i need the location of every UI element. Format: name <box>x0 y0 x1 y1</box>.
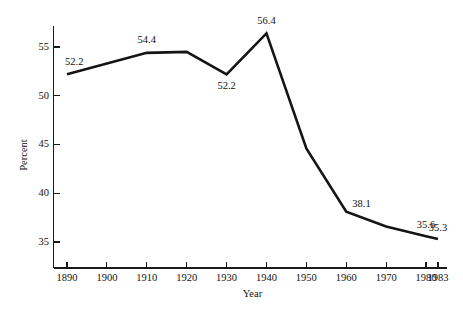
y-tick-label-50: 50 <box>39 90 50 101</box>
x-tick-label-1930: 1930 <box>216 272 237 283</box>
point-label-1930: 52.2 <box>217 80 235 91</box>
y-axis: 5550454035 <box>39 26 61 268</box>
y-tick-label-55: 55 <box>39 41 50 52</box>
line-chart: 5550454035 18901900191019201930194019501… <box>0 0 463 314</box>
x-tick-label-1910: 1910 <box>136 272 157 283</box>
x-tick-label-1890: 1890 <box>57 272 78 283</box>
x-axis-title: Year <box>243 288 263 299</box>
point-label-1910: 54.4 <box>138 34 157 45</box>
x-tick-label-1950: 1950 <box>296 272 317 283</box>
point-label-1960: 38.1 <box>352 198 370 209</box>
point-label-1940: 56.4 <box>257 15 276 26</box>
y-tick-label-40: 40 <box>39 187 50 198</box>
x-tick-label-1983: 1983 <box>428 272 449 283</box>
x-tick-label-1970: 1970 <box>376 272 397 283</box>
point-label-1890: 52.2 <box>65 56 83 67</box>
x-tick-label-1920: 1920 <box>176 272 197 283</box>
y-tick-label-35: 35 <box>39 236 50 247</box>
y-axis-title: Percent <box>18 139 29 171</box>
y-tick-label-45: 45 <box>39 138 50 149</box>
series-line-percent <box>67 33 438 239</box>
x-tick-label-1960: 1960 <box>336 272 357 283</box>
chart-container: 5550454035 18901900191019201930194019501… <box>0 0 463 314</box>
data-point-labels: 52.254.452.256.438.135.635.3 <box>65 15 447 233</box>
x-tick-label-1900: 1900 <box>96 272 117 283</box>
x-tick-label-1940: 1940 <box>256 272 277 283</box>
x-axis: 1890190019101920193019401950196019701980… <box>54 262 449 283</box>
point-label-1983: 35.3 <box>429 222 447 233</box>
data-series <box>67 33 438 239</box>
